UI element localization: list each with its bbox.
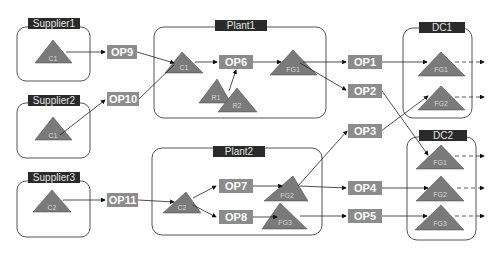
dc2-fg3-item[interactable]: FG3 [425, 220, 455, 227]
op2-box[interactable]: OP2 [348, 84, 382, 98]
dc1-label: DC1 [419, 22, 465, 33]
supplier2-c1-item[interactable]: C1 [38, 132, 68, 139]
supplier1-label: Supplier1 [28, 18, 80, 29]
plant2-fg3-item[interactable]: FG3 [270, 219, 300, 226]
dc1-fg1-item[interactable]: FG1 [426, 66, 456, 73]
plant2-fg2-item[interactable]: FG2 [272, 192, 302, 199]
op3-box[interactable]: OP3 [348, 124, 382, 138]
supplier2-label: Supplier2 [28, 95, 80, 106]
dc2-fg1-item[interactable]: FG1 [425, 159, 455, 166]
op7-box[interactable]: OP7 [219, 179, 253, 193]
plant2-label: Plant2 [213, 146, 265, 157]
dc1-fg2-item[interactable]: FG2 [426, 100, 456, 107]
supplier1-c1-item[interactable]: C1 [38, 55, 68, 62]
plant2-c2-item[interactable]: C2 [167, 204, 197, 211]
plant1-r1-item[interactable]: R1 [201, 94, 231, 101]
supplier3-c2-item[interactable]: C2 [37, 204, 67, 211]
dc2-label: DC2 [419, 130, 467, 141]
op6-box[interactable]: OP6 [219, 55, 253, 69]
op8-box[interactable]: OP8 [219, 210, 253, 224]
supplier3-label: Supplier3 [28, 172, 80, 183]
op1-box[interactable]: OP1 [348, 55, 382, 69]
plant1-fg1-item[interactable]: FG1 [278, 66, 308, 73]
plant1-c1-item[interactable]: C1 [169, 64, 199, 71]
op4-box[interactable]: OP4 [348, 181, 382, 195]
dc2-fg2-item[interactable]: FG2 [425, 191, 455, 198]
plant1-label: Plant1 [215, 20, 267, 31]
op5-box[interactable]: OP5 [348, 209, 382, 223]
op11-box[interactable]: OP11 [107, 193, 138, 207]
plant1-r2-item[interactable]: R2 [222, 102, 252, 109]
op10-box[interactable]: OP10 [107, 92, 139, 106]
op9-box[interactable]: OP9 [107, 45, 137, 59]
